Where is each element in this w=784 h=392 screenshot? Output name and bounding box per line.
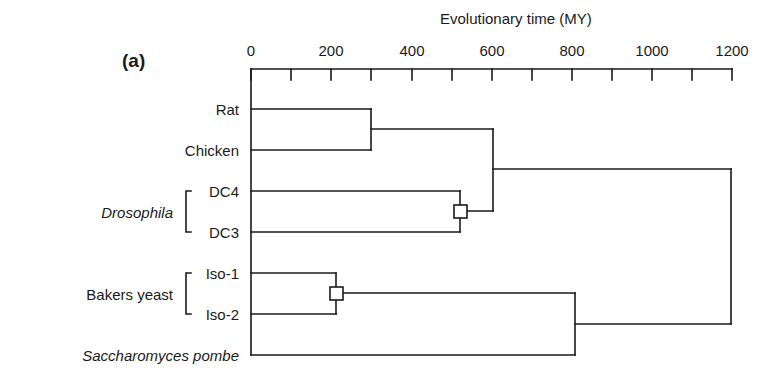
duplication-marker-drosophila [454, 205, 467, 218]
clade-bakers-yeast [251, 273, 575, 314]
bracket-drosophila [186, 191, 191, 232]
clade-yeasts [251, 293, 731, 355]
clade-animals [493, 129, 731, 211]
dendrogram [0, 0, 784, 392]
bracket-bakers-yeast [186, 273, 191, 314]
time-axis [251, 69, 732, 355]
clade-rat-chicken [251, 109, 493, 150]
duplication-marker-yeast [330, 287, 343, 300]
